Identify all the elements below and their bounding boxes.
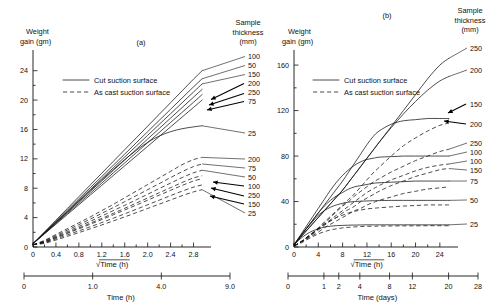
y-axis-tick-label: 12 [20,154,28,163]
x-axis-tick-label: 24 [436,250,444,259]
series-label-connector [202,126,245,133]
series-caption-line3: (mm) [239,37,256,46]
x-axis-tick-label: 4 [316,250,320,259]
y-axis-tick-label: 20 [20,96,28,105]
leader-line [211,188,244,196]
series-label-dashed-100-3: 100 [248,182,260,191]
data-curve [33,100,202,244]
series-caption-line1: Sample [457,6,482,15]
series-label-solid-100: 100 [248,52,260,61]
series-label-solid-250: 250 [248,88,260,97]
series-label-connector [449,169,467,170]
x-axis-tick-label: 0.8 [74,250,84,259]
y-axis-tick-label: 24 [20,66,28,75]
panel-a-label: (a) [136,38,145,47]
series-label-150-2: 150 [470,100,482,109]
series-labels: 250200150200250100100150755025 [444,44,482,229]
x-axis-title: √Time (h) [351,260,384,269]
figure-weight-gain-vs-time: 04812162024Weightgain (gm)00.40.81.21.62… [0,0,493,308]
legend-solid-label: Cut suction surface [344,76,407,85]
secondary-axis-tick-label: 9.0 [225,282,235,291]
series-label-connector [202,170,245,177]
series-label-150-7: 150 [470,166,482,175]
secondary-axis-tick-label: 0 [22,282,26,291]
x-axis-tick-label: 2.0 [143,250,153,259]
y-axis-tick-label: 40 [281,197,289,206]
x-axis-tick-label: 8 [341,250,345,259]
secondary-axis-tick-label: 20 [445,282,453,291]
data-curve [294,169,449,246]
series-label-connector [202,190,245,213]
y-axis-tick-label: 8 [24,184,28,193]
secondary-axis-tick-label: 1 [322,282,326,291]
series-label-250-0: 250 [470,44,482,53]
secondary-axis-tick-label: 28 [474,282,482,291]
series-label-25-10: 25 [470,220,478,229]
data-curve [33,71,202,244]
leader-line [213,182,244,186]
x-axis-tick-label: 1.6 [120,250,130,259]
series-label-100-5: 100 [470,148,482,157]
x-axis-tick-label: 2.8 [189,250,199,259]
leader-line [210,196,244,204]
series-label-solid-200: 200 [248,79,260,88]
series-label-solid-50: 50 [248,61,256,70]
series-label-solid-75: 75 [248,97,256,106]
x-axis-tick-label: 0 [292,250,296,259]
series-label-solid-25: 25 [248,129,256,138]
series-label-connector [449,48,467,58]
panel-b-label: (b) [382,11,391,20]
legend: Cut suction surfaceAs cast suction surfa… [63,76,170,97]
legend-solid-label: Cut suction surface [94,76,157,85]
data-curve [33,179,202,245]
series-label-connector [202,57,245,71]
secondary-axis-tick-label: 8 [388,282,392,291]
series-label-connector [449,70,467,76]
x-axis-tick-label: 12 [363,250,371,259]
data-curve [294,149,449,246]
data-curve [33,185,202,245]
series-label-connector [449,224,467,225]
y-axis-tick-label: 4 [24,213,28,222]
series-label-dashed-50-2: 50 [248,173,256,182]
data-curve [33,157,202,244]
series-label-connector [449,152,467,156]
leader-line [211,84,244,100]
data-curve [294,200,449,244]
leader-arrowhead [209,101,214,105]
y-axis-title-line2: gain (gm) [282,37,313,46]
data-curve [33,176,202,245]
data-curve [33,164,202,245]
series-label-75-8: 75 [470,177,478,186]
y-axis-tick-label: 120 [277,106,289,115]
series-label-50-9: 50 [470,196,478,205]
secondary-axis-tick-label: 2 [337,282,341,291]
series-caption-line2: thickness [233,28,264,37]
legend-dashed-label: As cast suction surface [344,88,420,97]
leader-arrowhead [207,107,212,111]
series-label-dashed-75-1: 75 [248,164,256,173]
curves [294,58,449,246]
chart-panel-b: 04080120160Weightgain (gm)04812162024√Ti… [277,6,486,302]
series-label-connector [202,157,245,159]
series-label-dashed-150-5: 150 [248,200,260,209]
x-axis-tick-label: 2.4 [166,250,176,259]
series-label-100-6: 100 [470,157,482,166]
series-label-connector [202,75,245,84]
series-label-dashed-25-6: 25 [248,209,256,218]
data-curve [294,225,449,245]
secondary-axis-tick-label: 4.0 [156,282,166,291]
series-label-solid-150: 150 [248,70,260,79]
data-curve [33,170,202,245]
data-curve [294,123,449,246]
y-axis-tick-label: 0 [24,243,28,252]
leader-arrowhead [211,187,216,191]
series-label-200-1: 200 [470,66,482,75]
curves [33,71,202,245]
series-label-dashed-250-4: 250 [248,191,260,200]
figure-svg: 04812162024Weightgain (gm)00.40.81.21.62… [0,0,493,308]
x-axis-tick-label: 1.2 [97,250,107,259]
legend-dashed-label: As cast suction surface [94,88,170,97]
series-label-200-3: 200 [470,120,482,129]
secondary-axis-tick-label: 1.0 [88,282,98,291]
